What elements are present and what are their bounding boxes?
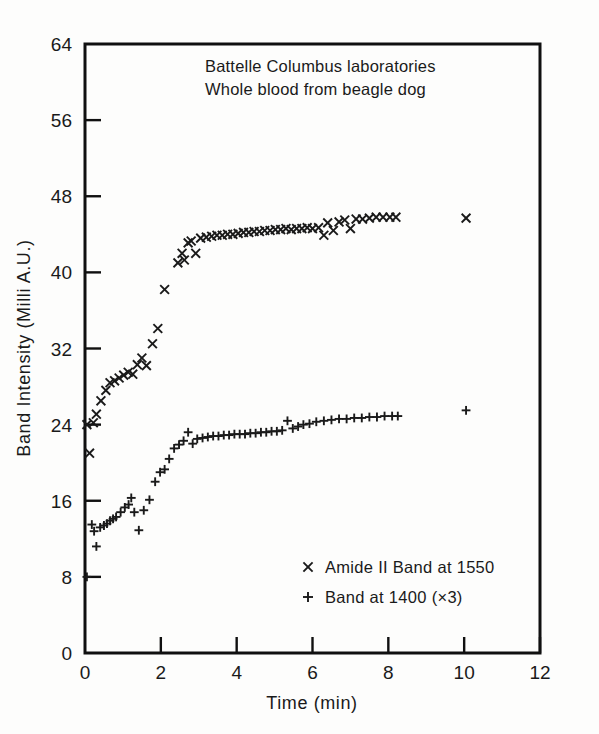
series-band-1400-points xyxy=(82,406,470,581)
x-tick-label: 10 xyxy=(454,662,475,683)
data-point-plus xyxy=(262,428,271,437)
y-tick-label: 56 xyxy=(51,110,72,131)
data-point-plus xyxy=(184,428,193,437)
data-point-plus xyxy=(299,420,308,429)
chart-legend: Amide II Band at 1550 Band at 1400 (×3) xyxy=(303,558,495,606)
data-point-x xyxy=(323,218,332,227)
series-amide-ii-1550-points xyxy=(82,213,470,458)
data-point-plus xyxy=(203,433,212,442)
data-point-plus xyxy=(241,430,250,439)
y-axis-ticks xyxy=(85,120,101,577)
annotation-line-1: Battelle Columbus laboratories xyxy=(205,57,436,75)
data-point-plus xyxy=(92,542,101,551)
data-point-plus xyxy=(165,454,174,463)
data-point-x xyxy=(92,410,101,419)
legend-marker-x-icon xyxy=(303,562,312,571)
x-axis-title: Time (min) xyxy=(266,693,357,713)
data-point-plus xyxy=(283,416,292,425)
y-tick-label: 8 xyxy=(61,567,72,588)
data-point-plus xyxy=(319,416,328,425)
y-tick-label: 40 xyxy=(51,262,72,283)
x-tick-label: 2 xyxy=(156,662,167,683)
y-axis-title: Band Intensity (Milli A.U.) xyxy=(14,239,34,456)
x-tick-label: 4 xyxy=(231,662,242,683)
data-point-plus xyxy=(272,427,281,436)
data-point-plus xyxy=(342,415,351,424)
y-tick-label: 0 xyxy=(61,643,72,664)
y-tick-label: 16 xyxy=(51,491,72,512)
legend-entry-amide-ii-1550: Amide II Band at 1550 xyxy=(303,558,494,576)
data-point-plus xyxy=(357,414,366,423)
data-point-x xyxy=(187,237,196,246)
y-tick-label: 64 xyxy=(51,34,73,55)
data-point-plus xyxy=(380,412,389,421)
data-point-plus xyxy=(462,406,471,415)
data-point-plus xyxy=(225,431,234,440)
data-point-plus xyxy=(139,506,148,515)
data-point-x xyxy=(319,231,328,240)
x-axis-ticks xyxy=(161,637,540,653)
data-point-plus xyxy=(303,592,313,602)
data-point-plus xyxy=(393,412,402,421)
x-axis-tick-labels: 024681012 xyxy=(80,662,551,683)
data-point-x xyxy=(142,361,151,370)
data-point-plus xyxy=(198,434,207,443)
x-tick-label: 0 xyxy=(80,662,91,683)
legend-entry-band-1400: Band at 1400 (×3) xyxy=(303,588,463,606)
data-point-plus xyxy=(188,439,197,448)
scatter-plot-svg: 0816243240485664 024681012 Time (min) Ba… xyxy=(0,0,599,734)
data-point-x xyxy=(148,339,157,348)
data-point-plus xyxy=(373,413,382,422)
y-tick-label: 48 xyxy=(51,186,72,207)
data-point-plus xyxy=(145,495,154,504)
data-point-plus xyxy=(278,426,287,435)
data-point-x xyxy=(97,396,106,405)
data-point-x xyxy=(303,562,312,571)
legend-label-amide-ii-1550: Amide II Band at 1550 xyxy=(325,558,495,576)
data-point-plus xyxy=(214,432,223,441)
data-point-plus xyxy=(251,429,260,438)
data-point-plus xyxy=(335,415,344,424)
x-tick-label: 8 xyxy=(383,662,394,683)
data-point-plus xyxy=(193,434,202,443)
data-point-plus xyxy=(288,424,297,433)
data-point-x xyxy=(462,214,471,223)
data-point-plus xyxy=(134,526,143,535)
legend-marker-plus-icon xyxy=(303,592,313,602)
x-tick-label: 12 xyxy=(529,662,550,683)
data-point-plus xyxy=(130,508,139,517)
data-point-plus xyxy=(116,508,125,517)
data-point-plus xyxy=(365,413,374,422)
data-point-plus xyxy=(151,477,160,486)
data-point-plus xyxy=(294,422,303,431)
data-point-x xyxy=(191,249,200,258)
annotation-line-2: Whole blood from beagle dog xyxy=(205,80,426,98)
data-point-plus xyxy=(327,415,336,424)
data-point-x xyxy=(153,324,162,333)
x-tick-label: 6 xyxy=(307,662,318,683)
data-point-x xyxy=(329,226,338,235)
data-point-plus xyxy=(305,419,314,428)
legend-label-band-1400: Band at 1400 (×3) xyxy=(325,588,463,606)
data-point-plus xyxy=(312,417,321,426)
data-point-x xyxy=(314,223,323,232)
y-tick-label: 24 xyxy=(51,415,73,436)
data-point-x xyxy=(346,224,355,233)
data-point-plus xyxy=(350,414,359,423)
y-axis-tick-labels: 0816243240485664 xyxy=(51,34,73,664)
data-point-x xyxy=(392,213,401,222)
data-point-x xyxy=(160,285,169,294)
chart-figure: 0816243240485664 024681012 Time (min) Ba… xyxy=(0,0,599,734)
y-tick-label: 32 xyxy=(51,339,72,360)
